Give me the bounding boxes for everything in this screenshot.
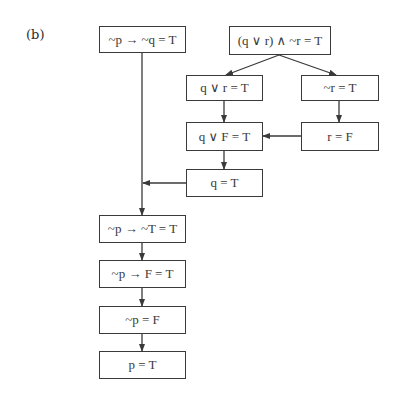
- node-not-r: ~r = T: [301, 75, 379, 101]
- edges-layer: [0, 0, 404, 400]
- node-q-or-r-and-not-r: (q ∨ r) ∧ ~r = T: [229, 26, 331, 55]
- node-not-p-false: ~p = F: [99, 306, 186, 334]
- edge-n2-n4: [279, 55, 336, 75]
- node-p-true: p = T: [99, 351, 186, 379]
- node-not-p-implies-not-true: ~p → ~T = T: [99, 215, 186, 243]
- edge-n2-n3: [226, 55, 279, 75]
- node-q-or-r: q ∨ r = T: [186, 75, 263, 101]
- node-q-true: q = T: [186, 169, 263, 197]
- node-q-or-false: q ∨ F = T: [186, 122, 263, 151]
- node-r-false: r = F: [301, 122, 379, 151]
- node-not-p-implies-not-q: ~p → ~q = T: [99, 26, 186, 53]
- node-not-p-implies-false: ~p → F = T: [99, 260, 186, 288]
